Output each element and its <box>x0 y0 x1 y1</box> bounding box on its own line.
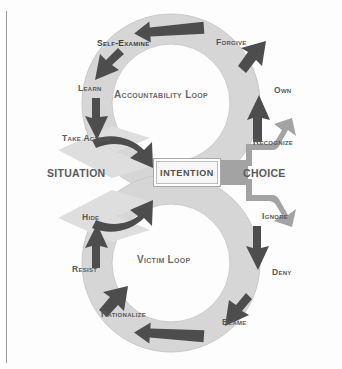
step-label-deny: Deny <box>272 268 292 277</box>
step-label-ignore: Ignore <box>262 212 288 221</box>
gateway-label-situation: SITUATION <box>47 168 106 179</box>
step-label-hide: Hide <box>82 213 99 222</box>
step-label-take-action: Take Action <box>62 134 110 143</box>
step-label-blame: Blame <box>222 318 247 327</box>
step-label-recognize: Recognize <box>253 138 293 147</box>
gateway-label-choice: CHOICE <box>243 168 286 179</box>
intention-label: INTENTION <box>160 168 214 178</box>
diagram-canvas: INTENTION SITUATION CHOICE Accountabilit… <box>0 0 342 369</box>
step-label-self-examine: Self-Examine <box>97 39 149 48</box>
loop-title-victim: Victim Loop <box>137 255 190 265</box>
step-label-own: Own <box>274 86 292 95</box>
loop-title-accountability: Accountability Loop <box>114 90 208 100</box>
step-label-rationalize: Rationalize <box>101 310 146 319</box>
intention-box: INTENTION <box>153 158 221 187</box>
step-label-forgive: Forgive <box>216 38 247 47</box>
step-label-resist: Resist <box>72 265 97 274</box>
step-label-learn: Learn <box>78 84 102 93</box>
